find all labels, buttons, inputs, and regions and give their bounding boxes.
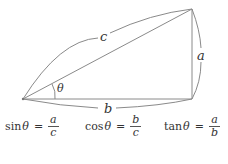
- brace-b-right: [116, 99, 192, 108]
- theta-var: θ: [183, 120, 190, 133]
- angle-arc: [52, 84, 55, 99]
- brace-a-bottom: [192, 62, 201, 99]
- label-c: c: [100, 29, 108, 44]
- denominator: b: [209, 127, 220, 139]
- label-theta: θ: [57, 82, 64, 95]
- side-c: [23, 9, 192, 99]
- equals: =: [195, 120, 204, 133]
- fraction: ab: [209, 114, 220, 139]
- fn-name: tan: [164, 120, 182, 133]
- denominator: c: [131, 127, 141, 139]
- triangle-diagram: c a b θ: [0, 0, 228, 164]
- sin-formula: sinθ = ac: [5, 114, 59, 139]
- label-a: a: [197, 48, 205, 63]
- denominator: c: [48, 127, 58, 139]
- fn-name: cos: [85, 120, 103, 133]
- theta-var: θ: [22, 120, 29, 133]
- fraction: ac: [48, 114, 59, 139]
- brace-c-right: [110, 9, 192, 33]
- tan-formula: tanθ = ab: [164, 114, 220, 139]
- brace-a-top: [192, 9, 201, 48]
- fraction: bc: [130, 114, 141, 139]
- vertex-point: [22, 98, 24, 100]
- fn-name: sin: [5, 120, 21, 133]
- cos-formula: cosθ = bc: [85, 114, 141, 139]
- equals: =: [116, 120, 125, 133]
- theta-var: θ: [104, 120, 111, 133]
- equals: =: [34, 120, 43, 133]
- brace-b-left: [23, 99, 98, 108]
